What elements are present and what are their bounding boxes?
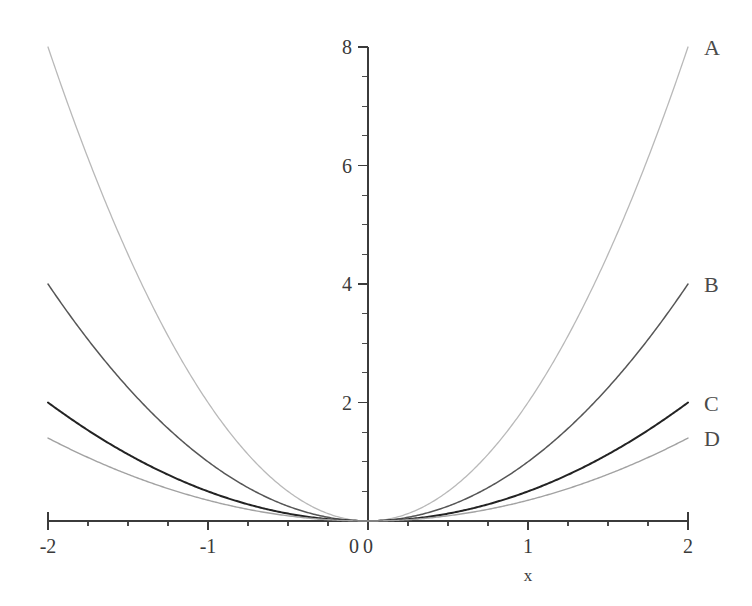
x-tick-label: 2	[683, 535, 693, 557]
curve-label-c: C	[704, 391, 719, 416]
chart-figure: -2-1012 02468 ABCD x	[0, 0, 752, 606]
x-axis-title: x	[524, 566, 533, 585]
x-tick-label: -1	[200, 535, 217, 557]
x-tick-label: -2	[40, 535, 57, 557]
x-tick-label: 0	[363, 535, 373, 557]
curve-label-d: D	[704, 426, 720, 451]
curve-label-b: B	[704, 272, 719, 297]
y-tick-label: 2	[342, 392, 352, 414]
y-tick-label: 8	[342, 36, 352, 58]
y-tick-label: 4	[342, 273, 352, 295]
plot-background	[0, 0, 752, 606]
y-tick-label: 6	[342, 155, 352, 177]
curve-label-a: A	[704, 35, 720, 60]
y-tick-label: 0	[349, 535, 359, 557]
parabola-plot-svg: -2-1012 02468 ABCD x	[0, 0, 752, 606]
x-tick-label: 1	[523, 535, 533, 557]
